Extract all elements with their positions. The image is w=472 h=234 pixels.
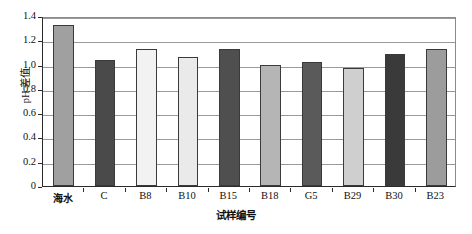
x-tick-label: B10 xyxy=(166,190,207,201)
x-tick-label: B8 xyxy=(125,190,166,201)
bar-B30 xyxy=(385,54,406,186)
y-tick-label: 1.2 xyxy=(2,35,36,45)
bars-layer xyxy=(43,18,455,186)
bar-海水 xyxy=(53,25,74,187)
x-tick-label: G5 xyxy=(290,190,331,201)
x-tick-label: B29 xyxy=(332,190,373,201)
bar-G5 xyxy=(302,62,323,186)
x-tick-label: B30 xyxy=(373,190,414,201)
plot-area xyxy=(42,17,456,187)
bar-B23 xyxy=(426,49,447,186)
x-tick-label: B15 xyxy=(208,190,249,201)
y-tick-label: 0.6 xyxy=(2,108,36,118)
y-tick-label: 0.8 xyxy=(2,84,36,94)
y-tick-label: 1.0 xyxy=(2,60,36,70)
x-tick-label: C xyxy=(83,190,124,201)
bar-B29 xyxy=(343,68,364,186)
y-tick-label: 0.2 xyxy=(2,157,36,167)
bar-chart: pH 差值 1.41.21.00.80.60.40.20 海水CB8B10B15… xyxy=(0,0,472,234)
y-tick-label: 0.4 xyxy=(2,132,36,142)
x-tick-label: B18 xyxy=(249,190,290,201)
x-tick-label: B23 xyxy=(415,190,456,201)
bar-B10 xyxy=(178,57,199,186)
bar-B15 xyxy=(219,49,240,186)
y-tick-label: 1.4 xyxy=(2,11,36,21)
x-axis-title: 试样编号 xyxy=(0,207,472,222)
y-tick-label: 0 xyxy=(2,181,36,191)
bar-B8 xyxy=(136,49,157,186)
bar-B18 xyxy=(260,65,281,186)
y-axis-ticks: 1.41.21.00.80.60.40.20 xyxy=(0,0,40,234)
bar-C xyxy=(95,60,116,186)
x-tick-label: 海水 xyxy=(42,190,83,205)
x-axis-ticks: 海水CB8B10B15B18G5B29B30B23 xyxy=(42,188,456,206)
